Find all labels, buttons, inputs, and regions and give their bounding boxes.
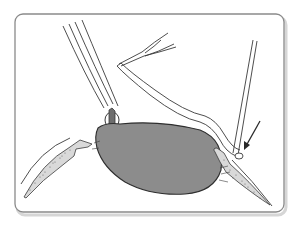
cannula-tip (235, 153, 243, 159)
illustration (0, 0, 299, 231)
